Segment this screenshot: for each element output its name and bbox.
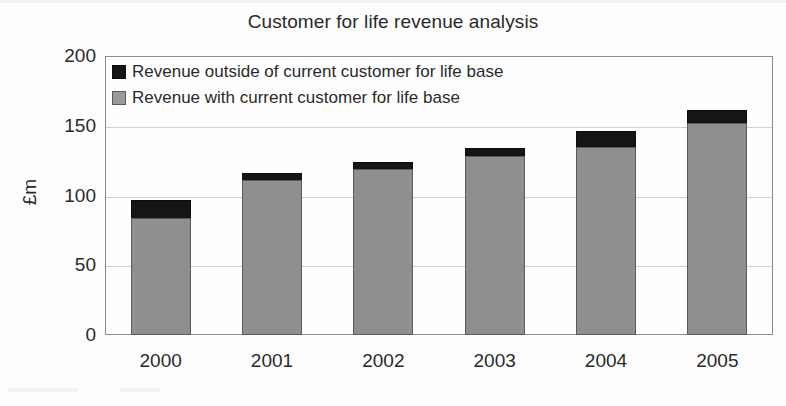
- legend-item[interactable]: Revenue with current customer for life b…: [112, 86, 582, 110]
- bar-segment-revenue-with-current-base[interactable]: [353, 169, 413, 335]
- chart-title: Customer for life revenue analysis: [0, 11, 786, 33]
- bar-group[interactable]: [687, 56, 747, 335]
- bar-segment-revenue-outside-current-base[interactable]: [576, 131, 636, 146]
- x-axis-tick-label: 2005: [667, 350, 767, 372]
- y-axis-tick-label: 100: [17, 185, 105, 207]
- grey-swatch-icon: [112, 91, 126, 105]
- bar-segment-revenue-outside-current-base[interactable]: [131, 200, 191, 218]
- scan-artifact: [0, 0, 786, 3]
- bar-segment-revenue-with-current-base[interactable]: [131, 218, 191, 335]
- scan-artifact: [120, 388, 160, 392]
- bar-segment-revenue-with-current-base[interactable]: [576, 147, 636, 335]
- chart-legend: Revenue outside of current customer for …: [112, 60, 582, 112]
- x-axis-tick-label: 2001: [222, 350, 322, 372]
- bar-segment-revenue-outside-current-base[interactable]: [687, 110, 747, 123]
- bar-segment-revenue-outside-current-base[interactable]: [465, 148, 525, 156]
- x-axis-tick-label: 2002: [333, 350, 433, 372]
- bar-segment-revenue-outside-current-base[interactable]: [353, 162, 413, 169]
- chart-container: Customer for life revenue analysis £m 05…: [0, 0, 786, 406]
- legend-item-label: Revenue with current customer for life b…: [132, 88, 460, 108]
- y-axis-tick-label: 150: [17, 115, 105, 137]
- x-axis-tick-label: 2004: [556, 350, 656, 372]
- x-axis-tick-label: 2003: [445, 350, 545, 372]
- black-swatch-icon: [112, 65, 126, 79]
- bar-segment-revenue-outside-current-base[interactable]: [242, 173, 302, 180]
- x-axis-tick-label: 2000: [111, 350, 211, 372]
- bar-group[interactable]: [576, 56, 636, 335]
- bar-segment-revenue-with-current-base[interactable]: [242, 180, 302, 335]
- y-axis-tick-label: 200: [17, 45, 105, 67]
- y-axis-tick-label: 0: [17, 324, 105, 346]
- y-axis-tick-labels: 050100150200: [0, 0, 105, 406]
- legend-item-label: Revenue outside of current customer for …: [132, 62, 503, 82]
- bar-segment-revenue-with-current-base[interactable]: [465, 156, 525, 335]
- y-axis-tick-label: 50: [17, 254, 105, 276]
- bar-segment-revenue-with-current-base[interactable]: [687, 123, 747, 335]
- legend-item[interactable]: Revenue outside of current customer for …: [112, 60, 582, 84]
